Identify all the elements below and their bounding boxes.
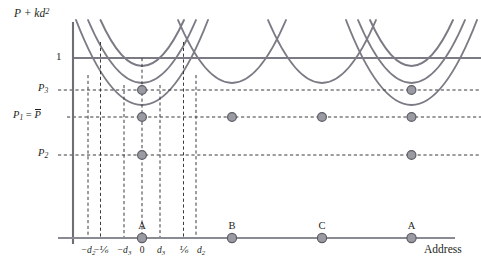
p1-equals: = (26, 109, 32, 120)
vertex-dot-a-right-p1 (407, 113, 416, 122)
firm-label-a-right: A (404, 221, 420, 232)
vertex-dot-a-p1 (138, 113, 147, 122)
delivered-price-figure: P + kd2 Address 1 P3 P1 = P P2 −d2 −⅙ −d… (0, 0, 481, 271)
y-tick-label-p3: P3 (38, 83, 48, 94)
curve-a-right-p3 (370, 20, 453, 66)
y-tick-label-p1-equals-pbar: P1 = P (13, 110, 41, 121)
p2-subscript: 2 (44, 151, 48, 160)
y-axis-title-exponent: 2 (45, 7, 49, 16)
curve-vertex-dots (138, 86, 416, 160)
firm-label-b: B (224, 221, 240, 232)
y-tick-label-p2: P2 (38, 148, 48, 159)
firm-dot-b (227, 233, 236, 242)
price-reference-lines (58, 90, 481, 155)
pos-d3-subscript: 3 (162, 249, 165, 256)
price-curves (76, 20, 477, 105)
vertex-dot-c-p1 (318, 113, 327, 122)
neg-d3-subscript: 3 (128, 249, 131, 256)
vertex-dot-a-right-p3 (407, 86, 416, 95)
x-tick-label-neg-sixth: −⅙ (89, 246, 113, 256)
firm-dot-a-right (407, 233, 416, 242)
vertex-dot-b-p1 (228, 113, 237, 122)
curve-b-p1 (178, 20, 286, 83)
firm-dot-c (317, 233, 326, 242)
p-bar: P (34, 110, 40, 121)
y-axis-title: P + kd2 (14, 8, 49, 20)
pos-d2-subscript: 2 (202, 249, 205, 256)
x-tick-label-neg-d3: −d3 (112, 246, 136, 257)
neg-d3-base: −d (117, 245, 128, 255)
x-tick-label-pos-d3: d3 (152, 246, 170, 257)
x-axis-title: Address (424, 244, 462, 256)
x-tick-label-zero: 0 (134, 246, 150, 256)
y-axis-title-base: P + kd (14, 7, 45, 19)
firm-dot-a-left (137, 233, 146, 242)
firm-label-c: C (314, 221, 330, 232)
p3-subscript: 3 (44, 86, 48, 95)
vertex-dot-a-right-p2 (407, 151, 416, 160)
vertex-dot-a-p2 (138, 151, 147, 160)
firm-label-a-left: A (134, 221, 150, 232)
x-tick-label-pos-d2: d2 (192, 246, 210, 257)
vertex-dot-a-p3 (138, 86, 147, 95)
address-gridlines (88, 42, 196, 238)
y-tick-label-one: 1 (56, 51, 62, 62)
x-tick-label-pos-sixth: ⅙ (175, 246, 193, 256)
